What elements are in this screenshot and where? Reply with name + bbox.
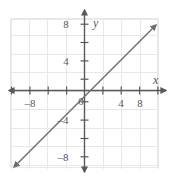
y-tick-8: 8: [59, 19, 73, 30]
y-tick-neg-4: –4: [53, 115, 73, 126]
y-axis-label: y: [93, 17, 98, 29]
y-tick-neg-8: –8: [53, 152, 73, 163]
y-tick-4: 4: [59, 56, 73, 67]
plotted-line: [0, 0, 174, 179]
origin-label: 0: [75, 96, 87, 107]
graph-figure: y x 8 4 –4 –8 –8 0 4 8: [0, 0, 174, 179]
x-tick-neg-8: –8: [19, 98, 41, 109]
x-tick-4: 4: [114, 98, 128, 109]
x-tick-8: 8: [133, 98, 147, 109]
x-axis-label: x: [153, 74, 158, 86]
